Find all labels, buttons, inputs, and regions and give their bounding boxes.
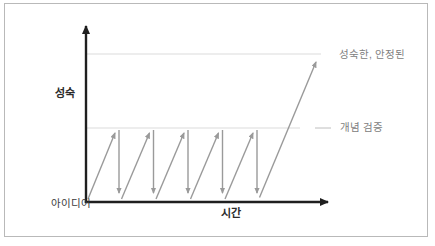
mature-stable-label: 성숙한, 안정된 xyxy=(339,49,405,61)
iteration-rise-arrow xyxy=(191,133,219,199)
proof-of-concept-label: 개념 검증 xyxy=(340,122,383,134)
iteration-rise-arrow xyxy=(88,133,115,199)
caption-clipped: 그림 1-1 xyxy=(2,241,222,246)
screenshot-root: 성숙 시간 아이디어 성숙한, 안정된 개념 검증 그림 1-1 xyxy=(0,0,435,246)
x-axis-label: 시간 xyxy=(221,207,241,219)
iteration-rise-arrow xyxy=(225,133,253,199)
iteration-rise-arrow xyxy=(156,133,184,199)
iteration-arrows xyxy=(88,62,316,199)
y-axis-label: 성숙 xyxy=(55,87,75,99)
origin-label: 아이디어 xyxy=(51,198,91,210)
iteration-rise-arrow xyxy=(122,133,150,199)
maturation-arrow xyxy=(260,62,317,198)
